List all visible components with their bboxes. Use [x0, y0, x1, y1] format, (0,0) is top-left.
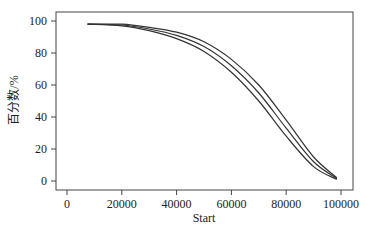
- x-tick-label: 60000: [216, 197, 246, 211]
- series-layer: [88, 24, 337, 179]
- plot-frame: [56, 12, 353, 190]
- y-axis-title: 百分数/%: [6, 75, 21, 124]
- y-tick-label: 80: [35, 46, 47, 60]
- x-tick-label: 0: [64, 197, 70, 211]
- line-chart: 020000400006000080000100000 020406080100…: [0, 0, 367, 238]
- y-tick-label: 60: [35, 78, 47, 92]
- x-tick-label: 80000: [271, 197, 301, 211]
- y-tick-label: 40: [35, 110, 47, 124]
- plot-border: [56, 12, 353, 190]
- series-line-curve-upper: [88, 24, 337, 178]
- series-line-curve-middle: [88, 24, 337, 178]
- x-tick-label: 40000: [162, 197, 192, 211]
- x-tick-label: 100000: [323, 197, 359, 211]
- y-axis: 020406080100: [29, 14, 56, 188]
- x-axis: 020000400006000080000100000: [64, 190, 359, 211]
- y-tick-label: 0: [41, 174, 47, 188]
- x-axis-title: Start: [193, 211, 216, 225]
- y-tick-label: 20: [35, 142, 47, 156]
- x-tick-label: 20000: [107, 197, 137, 211]
- series-line-curve-lower: [88, 24, 337, 179]
- y-tick-label: 100: [29, 14, 47, 28]
